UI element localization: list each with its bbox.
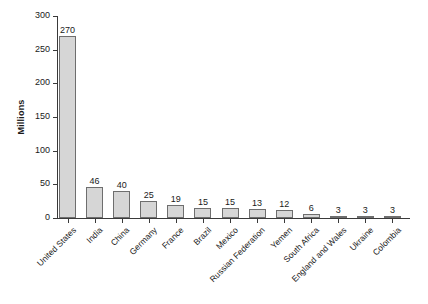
x-axis-category-label: China <box>109 225 132 248</box>
x-axis-tick <box>338 219 339 223</box>
bar-value-label: 13 <box>252 198 262 208</box>
y-axis-tick: 0 <box>53 218 58 219</box>
bar-value-label: 15 <box>198 197 208 207</box>
bar: 40 <box>113 191 130 218</box>
bar: 3 <box>357 216 374 218</box>
y-axis-tick: 250 <box>53 50 58 51</box>
y-axis-tick-label: 0 <box>45 212 50 222</box>
bar: 15 <box>194 208 211 218</box>
bar-value-label: 3 <box>390 205 395 215</box>
x-axis-tick <box>149 219 150 223</box>
x-axis-tick <box>257 219 258 223</box>
y-axis-tick: 50 <box>53 184 58 185</box>
bar: 13 <box>249 209 266 218</box>
y-axis-tick: 300 <box>53 16 58 17</box>
x-axis-tick <box>284 219 285 223</box>
bar-chart: Millions 050100150200250300270United Sta… <box>0 0 428 304</box>
bar-value-label: 15 <box>225 197 235 207</box>
bar-value-label: 40 <box>117 180 127 190</box>
bar: 3 <box>384 216 401 218</box>
x-axis-tick <box>230 219 231 223</box>
y-axis-title: Millions <box>14 0 28 237</box>
bar-value-label: 46 <box>90 176 100 186</box>
x-axis-category-label: Colombia <box>370 225 402 257</box>
x-axis-category-label: France <box>160 225 186 251</box>
bar: 270 <box>59 36 76 218</box>
x-axis-tick <box>203 219 204 223</box>
bar-value-label: 3 <box>363 205 368 215</box>
y-axis-tick-label: 200 <box>35 77 50 87</box>
x-axis-category-label: United States <box>34 225 77 268</box>
y-axis-tick-label: 50 <box>40 178 50 188</box>
bar: 25 <box>140 201 157 218</box>
bar: 12 <box>276 210 293 218</box>
x-axis-tick <box>122 219 123 223</box>
bar: 15 <box>222 208 239 218</box>
x-axis-tick <box>311 219 312 223</box>
bar-value-label: 19 <box>171 194 181 204</box>
y-axis-tick-label: 100 <box>35 145 50 155</box>
bar: 6 <box>303 214 320 218</box>
y-axis-tick: 150 <box>53 117 58 118</box>
bar-value-label: 270 <box>60 25 75 35</box>
bar: 3 <box>330 216 347 218</box>
y-axis-tick: 200 <box>53 83 58 84</box>
x-axis-tick <box>95 219 96 223</box>
x-axis-category-label: India <box>85 225 105 245</box>
y-axis-tick: 100 <box>53 151 58 152</box>
x-axis-category-label: Germany <box>127 225 159 257</box>
bar: 46 <box>86 187 103 218</box>
y-axis-tick-label: 150 <box>35 111 50 121</box>
bar-value-label: 6 <box>309 203 314 213</box>
y-axis-tick-label: 300 <box>35 10 50 20</box>
bar: 19 <box>167 205 184 218</box>
plot-area: 050100150200250300270United States46Indi… <box>58 16 410 218</box>
x-axis-tick <box>365 219 366 223</box>
bar-value-label: 3 <box>336 205 341 215</box>
x-axis-line <box>57 218 410 219</box>
x-axis-tick <box>68 219 69 223</box>
x-axis-tick <box>176 219 177 223</box>
bar-value-label: 25 <box>144 190 154 200</box>
x-axis-tick <box>392 219 393 223</box>
bar-value-label: 12 <box>279 199 289 209</box>
x-axis-category-label: Brazil <box>191 225 213 247</box>
y-axis-tick-label: 250 <box>35 44 50 54</box>
